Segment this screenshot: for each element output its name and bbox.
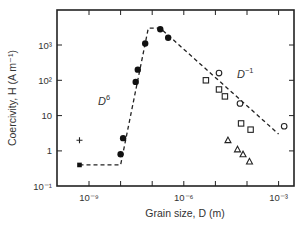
open-square-marker	[222, 94, 227, 99]
annotation-label: D6	[98, 93, 110, 107]
plot-frame	[57, 10, 294, 186]
open-square-marker	[238, 121, 243, 126]
filled-circle-marker	[165, 35, 171, 41]
y-tick-label: 10	[41, 110, 52, 121]
plus-marker	[76, 137, 82, 143]
open-circle-marker	[281, 123, 287, 129]
y-axis-ticks: 10⁻¹11010²10³	[33, 40, 294, 192]
filled-circle-marker	[157, 26, 163, 32]
filled-circle-marker	[120, 135, 126, 141]
open-triangle-marker	[225, 137, 231, 143]
plot-border	[57, 10, 294, 186]
y-axis-title: Coercivity, H (A m⁻¹)	[6, 50, 18, 146]
annotation-label: D−1	[237, 66, 254, 80]
annotations: D6D−1	[98, 66, 254, 107]
open-triangle-marker	[234, 146, 240, 152]
filled-circle-marker	[117, 151, 123, 157]
open-circle-marker	[216, 70, 222, 76]
filled-square-marker	[77, 163, 82, 168]
y-tick-label: 10³	[38, 40, 52, 51]
x-tick-label: 10⁻³	[269, 192, 288, 203]
open-square-marker	[216, 87, 221, 92]
open-circle-marker	[237, 101, 243, 107]
x-axis-ticks: 10⁻⁹10⁻⁶10⁻³	[79, 10, 288, 203]
x-axis-title: Grain size, D (m)	[145, 207, 224, 219]
open-square-marker	[248, 127, 253, 132]
filled-circle-marker	[132, 79, 138, 85]
open-triangle-marker	[247, 158, 253, 164]
x-tick-label: 10⁻⁶	[174, 192, 194, 203]
coercivity-vs-grain-size-chart: 10⁻⁹10⁻⁶10⁻³ 10⁻¹11010²10³ D6D−1 Grain s…	[0, 0, 305, 230]
x-tick-label: 10⁻⁹	[79, 192, 99, 203]
y-tick-label: 10²	[38, 75, 52, 86]
filled-circle-marker	[142, 40, 148, 46]
filled-circle-marker	[135, 66, 141, 72]
y-tick-label: 1	[47, 145, 52, 156]
open-square-marker	[203, 78, 208, 83]
y-tick-label: 10⁻¹	[33, 181, 52, 192]
